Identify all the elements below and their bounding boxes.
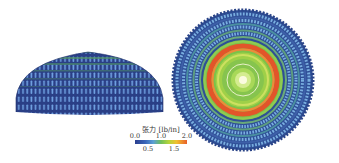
tick-2-0: 2.0 — [182, 132, 192, 140]
colorbar-top-ticks: 0.0 1.0 2.0 — [128, 132, 194, 140]
tick-1-0: 1.0 — [156, 132, 166, 140]
colorbar-gradient — [135, 140, 187, 144]
tick-1-5: 1.5 — [169, 145, 179, 153]
colorbar-bottom-ticks: 0.5 1.5 — [128, 145, 194, 153]
colorbar-legend: 张力 [lb/in] 0.0 1.0 2.0 0.5 1.5 — [128, 124, 194, 160]
tick-0-5: 0.5 — [143, 145, 153, 153]
disk-top-view-graphic — [170, 0, 339, 163]
disk-top-view — [170, 0, 339, 163]
tick-0-0: 0.0 — [130, 132, 140, 140]
